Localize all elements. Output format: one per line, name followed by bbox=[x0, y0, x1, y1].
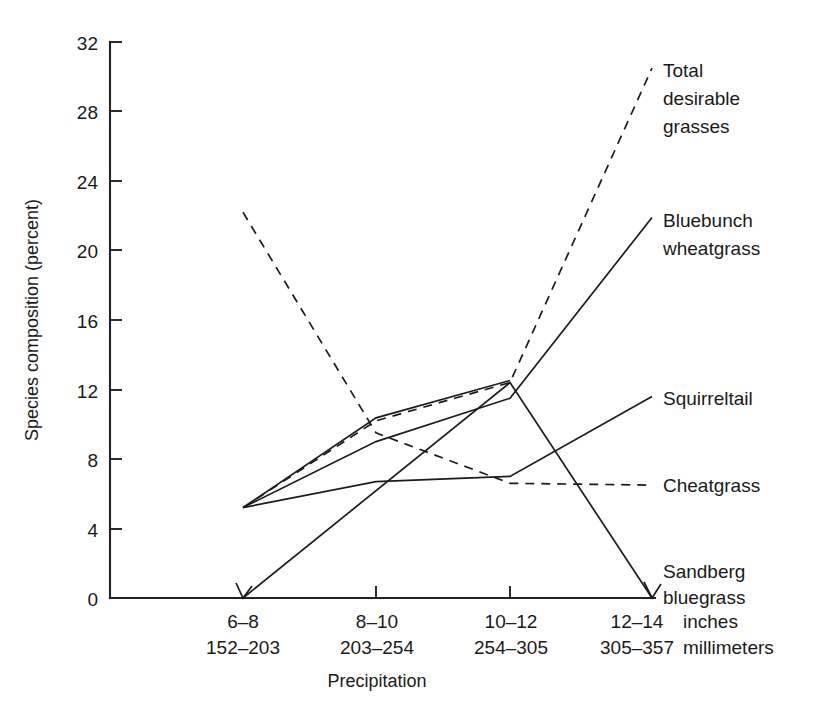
series-label-bluebunch-line1: Bluebunch bbox=[663, 210, 753, 231]
y-tick-label-32: 32 bbox=[77, 33, 98, 54]
series-line-total-desirable-grasses bbox=[243, 68, 652, 508]
arrowhead-sandberg-start bbox=[236, 583, 252, 598]
x-tick-label-inches-4: 12–14 bbox=[611, 611, 664, 632]
y-axis-title: Species composition (percent) bbox=[22, 199, 42, 441]
series-label-bluebunch-wheatgrass: Bluebunch wheatgrass bbox=[662, 210, 760, 259]
x-tick-label-inches-1: 6–8 bbox=[227, 611, 259, 632]
x-tick-label-mm-2: 203–254 bbox=[340, 637, 414, 658]
series-label-squirreltail: Squirreltail bbox=[663, 388, 753, 409]
series-label-total-desirable-grasses: Total desirable grasses bbox=[663, 60, 740, 137]
y-tick-label-20: 20 bbox=[77, 241, 98, 262]
y-tick-label-0: 0 bbox=[87, 589, 98, 610]
series-line-cheatgrass bbox=[243, 212, 652, 485]
y-tick-label-4: 4 bbox=[87, 520, 98, 541]
series-label-total-line1: Total bbox=[663, 60, 703, 81]
y-tick-label-8: 8 bbox=[87, 450, 98, 471]
x-axis-title: Precipitation bbox=[327, 671, 426, 691]
series-label-sandberg-line1: Sandberg bbox=[663, 561, 745, 582]
series-label-cheatgrass: Cheatgrass bbox=[663, 475, 760, 496]
y-axis-tick-labels: 32 28 24 20 16 12 8 4 0 bbox=[77, 33, 99, 610]
chart-figure: Species composition (percent) 32 28 24 2… bbox=[0, 0, 832, 709]
species-composition-line-chart: Species composition (percent) 32 28 24 2… bbox=[0, 0, 832, 709]
series-line-bluebunch-wheatgrass bbox=[243, 218, 652, 508]
x-tick-label-mm-4: 305–357 bbox=[600, 637, 674, 658]
series-label-bluebunch-line2: wheatgrass bbox=[662, 238, 760, 259]
x-axis-ticks bbox=[376, 586, 510, 598]
x-tick-label-mm-3: 254–305 bbox=[474, 637, 548, 658]
y-tick-label-28: 28 bbox=[77, 102, 98, 123]
x-tick-label-inches-2: 8–10 bbox=[356, 611, 398, 632]
x-axis-tick-labels: 6–8 152–203 8–10 203–254 10–12 254–305 1… bbox=[206, 611, 774, 658]
y-tick-label-16: 16 bbox=[77, 311, 98, 332]
series-label-total-line3: grasses bbox=[663, 116, 730, 137]
x-tick-label-mm-1: 152–203 bbox=[206, 637, 280, 658]
x-tick-label-inches-3: 10–12 bbox=[485, 611, 538, 632]
series-label-total-line2: desirable bbox=[663, 88, 740, 109]
y-tick-label-24: 24 bbox=[77, 172, 99, 193]
x-unit-label-inches: inches bbox=[683, 611, 738, 632]
x-unit-label-millimeters: millimeters bbox=[683, 637, 774, 658]
series-line-squirreltail bbox=[243, 397, 652, 508]
series-label-sandberg-bluegrass: Sandberg bluegrass bbox=[663, 561, 745, 608]
y-tick-label-12: 12 bbox=[77, 381, 98, 402]
series-label-sandberg-line2: bluegrass bbox=[663, 587, 745, 608]
y-axis-ticks bbox=[110, 42, 122, 529]
series-line-sandberg-bluegrass bbox=[243, 383, 652, 598]
